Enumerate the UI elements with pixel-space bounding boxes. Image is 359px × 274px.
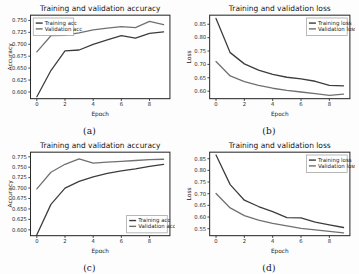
y-tick-label: 0.75 [194, 179, 206, 185]
x-tick-label: 8 [328, 238, 332, 244]
x-axis-label: Epoch [271, 247, 289, 254]
y-tick-label: 0.80 [194, 34, 206, 40]
x-tick-label: 6 [299, 101, 303, 107]
x-tick-label: 4 [271, 238, 275, 244]
x-tick-label: 2 [243, 238, 246, 244]
y-tick-label: 0.625 [12, 77, 27, 83]
subfigure-c-caption: (c) [0, 263, 179, 273]
x-axis-label: Epoch [91, 247, 109, 254]
subfigure-d-caption: (d) [179, 263, 359, 273]
x-tick-label: 6 [120, 101, 124, 107]
x-tick-label: 0 [35, 238, 39, 244]
y-tick-label: 0.55 [194, 225, 206, 231]
y-tick-label: 0.85 [194, 155, 206, 161]
x-axis-label: Epoch [91, 110, 109, 117]
y-tick-label: 0.70 [194, 61, 206, 67]
x-tick-label: 0 [35, 101, 39, 107]
chart-title: Training and validation accuracy [39, 141, 161, 150]
y-tick-label: 0.625 [12, 216, 27, 222]
subfigure-b-caption: (b) [179, 126, 359, 136]
chart-d[interactable]: Training and validation loss0.550.600.65… [185, 139, 355, 255]
subfigure-d: Training and validation loss0.550.600.65… [179, 137, 359, 274]
y-tick-label: 0.650 [12, 65, 28, 71]
chart-title: Training and validation accuracy [39, 4, 161, 13]
subfigure-c-wrap: Training and validation accuracy0.6000.6… [0, 137, 179, 274]
y-tick-label: 0.60 [194, 214, 206, 220]
legend-label: Validation loss [318, 163, 355, 169]
subfigure-c: Training and validation accuracy0.6000.6… [0, 137, 179, 274]
y-tick-label: 0.85 [194, 21, 206, 27]
x-tick-label: 8 [328, 101, 332, 107]
y-tick-label: 0.75 [194, 48, 206, 54]
subfigure-grid: Training and validation accuracy0.6000.6… [0, 0, 359, 274]
subfigure-a-wrap: Training and validation accuracy0.6000.6… [0, 0, 179, 137]
y-axis-label: Accuracy [7, 180, 14, 208]
subfigure-a: Training and validation accuracy0.6000.6… [0, 0, 179, 137]
y-tick-label: 0.65 [194, 75, 206, 81]
y-tick-label: 0.65 [194, 202, 206, 208]
y-axis-label: Loss [186, 50, 192, 63]
y-tick-label: 0.750 [12, 17, 28, 23]
chart-b[interactable]: Training and validation loss0.600.650.70… [185, 2, 355, 118]
y-tick-label: 0.725 [12, 29, 27, 35]
y-tick-label: 0.80 [194, 167, 206, 173]
legend-label: Validation loss [318, 26, 355, 32]
y-tick-label: 0.725 [12, 174, 27, 180]
y-tick-label: 0.700 [12, 41, 28, 47]
y-tick-label: 0.750 [12, 164, 28, 170]
y-tick-label: 0.775 [12, 154, 27, 160]
x-tick-label: 0 [214, 238, 218, 244]
y-tick-label: 0.700 [12, 185, 28, 191]
x-tick-label: 8 [148, 101, 152, 107]
x-tick-label: 4 [92, 101, 96, 107]
x-tick-label: 6 [299, 238, 303, 244]
legend-label: Validation acc [138, 223, 175, 229]
x-tick-label: 2 [243, 101, 246, 107]
subfigure-d-wrap: Training and validation loss0.550.600.65… [179, 137, 359, 274]
x-axis-label: Epoch [271, 110, 289, 117]
subfigure-a-caption: (a) [0, 126, 179, 136]
y-tick-label: 0.650 [12, 206, 28, 212]
y-axis-label: Accuracy [7, 43, 14, 71]
y-tick-label: 0.675 [12, 53, 27, 59]
y-axis-label: Loss [186, 187, 192, 200]
chart-c[interactable]: Training and validation accuracy0.6000.6… [6, 139, 175, 255]
x-tick-label: 2 [63, 238, 66, 244]
y-tick-label: 0.675 [12, 195, 27, 201]
legend-label: Validation acc [45, 26, 83, 32]
y-tick-label: 0.600 [12, 227, 28, 233]
y-tick-label: 0.70 [194, 190, 206, 196]
subfigure-b-wrap: Training and validation loss0.600.650.70… [179, 0, 359, 137]
x-tick-label: 6 [120, 238, 124, 244]
chart-title: Training and validation loss [228, 141, 331, 150]
x-tick-label: 0 [214, 101, 218, 107]
chart-a[interactable]: Training and validation accuracy0.6000.6… [6, 2, 175, 118]
y-tick-label: 0.600 [12, 89, 28, 95]
figure-sheet: Training and validation accuracy0.6000.6… [0, 0, 359, 274]
x-tick-label: 2 [63, 101, 66, 107]
x-tick-label: 8 [148, 238, 152, 244]
chart-title: Training and validation loss [228, 4, 331, 13]
x-tick-label: 4 [92, 238, 96, 244]
subfigure-b: Training and validation loss0.600.650.70… [179, 0, 359, 137]
y-tick-label: 0.60 [194, 88, 206, 94]
x-tick-label: 4 [271, 101, 275, 107]
